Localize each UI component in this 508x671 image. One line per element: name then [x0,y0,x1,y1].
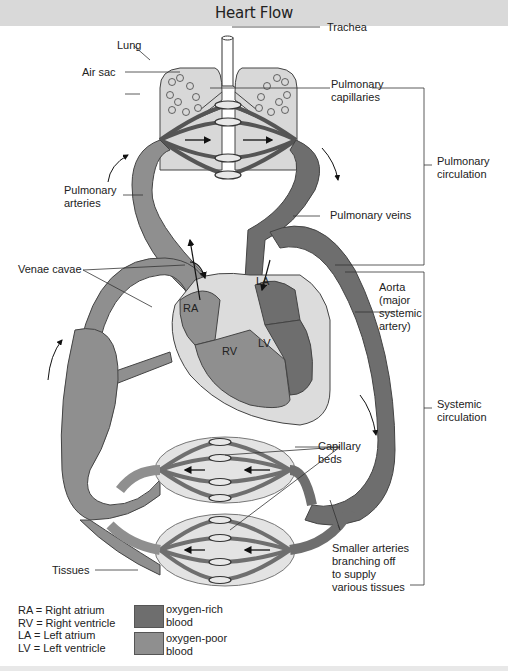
abbreviation-legend: RA = Right atrium RV = Right ventricle L… [18,604,115,654]
label-lung: Lung [117,39,141,52]
label-pulmonary-capillaries: Pulmonary capillaries [331,78,384,104]
label-pulmonary-veins: Pulmonary veins [330,209,411,222]
label-trachea: Trachea [327,21,367,34]
legend-lv: LV = Left ventricle [18,642,115,655]
legend-oxygen-rich: oxygen-rich blood [166,603,223,628]
heart [172,273,330,425]
label-venae-cavae: Venae cavae [18,263,82,276]
label-ra: RA [183,302,198,315]
label-la: LA [256,275,269,288]
legend-ra: RA = Right atrium [18,604,115,617]
label-rv: RV [222,345,237,358]
legend-la: LA = Left atrium [18,629,115,642]
systemic-vein [61,329,160,520]
label-air-sac: Air sac [82,66,116,79]
label-systemic-circulation: Systemic circulation [437,398,487,424]
label-pulmonary-circulation: Pulmonary circulation [437,155,490,181]
tissue-bed-lower [155,514,295,586]
label-lv: LV [258,337,271,350]
label-tissues: Tissues [52,564,90,577]
legend-rv: RV = Right ventricle [18,617,115,630]
tissue-bed-upper [155,437,295,503]
label-aorta: Aorta (major systemic artery) [379,281,422,333]
label-smaller-arteries: Smaller arteries branching off to supply… [332,542,409,594]
label-pulmonary-arteries: Pulmonary arteries [64,184,117,210]
swatch-oxygen-poor [134,632,164,655]
bottom-divider [0,666,508,671]
label-capillary-beds: Capillary beds [318,440,361,466]
swatch-oxygen-rich [134,605,164,628]
legend-oxygen-poor: oxygen-poor blood [166,632,227,657]
